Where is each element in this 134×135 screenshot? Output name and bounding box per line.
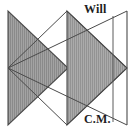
triangles-diagram-svg (0, 0, 134, 135)
label-cm: C.M. (84, 113, 111, 125)
label-will: Will (84, 3, 107, 15)
figure-container: Will C.M. (0, 0, 134, 135)
